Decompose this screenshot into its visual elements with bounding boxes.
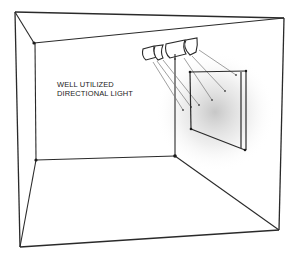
caption-line-2: DIRECTIONAL LIGHT [57, 89, 133, 98]
caption-line-1: WELL UTILIZED [57, 80, 133, 89]
diagram-caption: WELL UTILIZED DIRECTIONAL LIGHT [57, 80, 133, 98]
room-diagram: WELL UTILIZED DIRECTIONAL LIGHT [0, 0, 299, 257]
spotlight-icon [166, 40, 187, 58]
vertex-dots [32, 41, 176, 161]
spotlight-icon [185, 38, 198, 55]
spotlight-fixtures [142, 38, 197, 60]
